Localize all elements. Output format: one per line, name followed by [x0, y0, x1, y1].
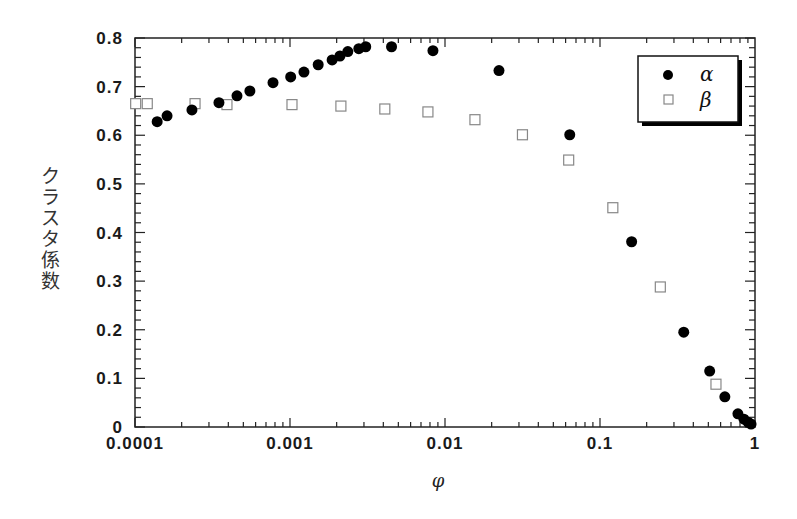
beta-point [423, 107, 433, 117]
beta-point [287, 100, 297, 110]
beta-point [470, 115, 480, 125]
alpha-point [213, 97, 224, 108]
alpha-point [152, 116, 163, 127]
legend-alpha-marker-icon [663, 70, 673, 80]
x-tick-label: 0.01 [426, 434, 463, 453]
y-tick-label: 0.3 [96, 272, 123, 291]
alpha-point [360, 41, 371, 52]
beta-point [608, 203, 618, 213]
y-tick-label: 0.8 [96, 29, 123, 48]
y-tick-label: 0.6 [96, 126, 123, 145]
y-tick-label: 0.2 [96, 321, 123, 340]
legend-box [638, 56, 738, 122]
alpha-point [493, 65, 504, 76]
alpha-point [342, 46, 353, 57]
y-tick-label: 0.5 [96, 175, 123, 194]
beta-point [711, 379, 721, 389]
alpha-point [719, 391, 730, 402]
alpha-point [626, 236, 637, 247]
legend-alpha-label: α [700, 62, 714, 86]
beta-point [142, 99, 152, 109]
y-axis-title: クラスタ係数 [38, 166, 62, 292]
x-tick-label: 0.1 [587, 434, 614, 453]
beta-point [336, 101, 346, 111]
y-tick-label: 0.7 [96, 78, 123, 97]
y-tick-label: 0.1 [96, 369, 123, 388]
alpha-point [427, 45, 438, 56]
alpha-point [244, 86, 255, 97]
alpha-point [298, 67, 309, 78]
alpha-point [285, 71, 296, 82]
beta-point [517, 130, 527, 140]
y-tick-label: 0 [113, 418, 123, 437]
alpha-point [564, 129, 575, 140]
x-tick-label: 1 [750, 434, 760, 453]
x-tick-label: 0.001 [266, 434, 314, 453]
alpha-point [313, 59, 324, 70]
alpha-point [186, 104, 197, 115]
alpha-point [268, 77, 279, 88]
chart-canvas: 0.00010.0010.010.11 00.10.20.30.40.50.60… [0, 0, 797, 519]
alpha-point [746, 419, 757, 430]
alpha-point [231, 90, 242, 101]
beta-point [655, 282, 665, 292]
x-axis-title: φ [432, 470, 445, 491]
legend-beta-label: β [699, 88, 712, 112]
legend: α β [638, 56, 742, 126]
alpha-point [678, 327, 689, 338]
y-tick-label: 0.4 [96, 224, 123, 243]
alpha-point [162, 110, 173, 121]
alpha-point [704, 366, 715, 377]
beta-point [380, 104, 390, 114]
alpha-point [386, 41, 397, 52]
beta-point [131, 99, 141, 109]
beta-point [564, 155, 574, 165]
